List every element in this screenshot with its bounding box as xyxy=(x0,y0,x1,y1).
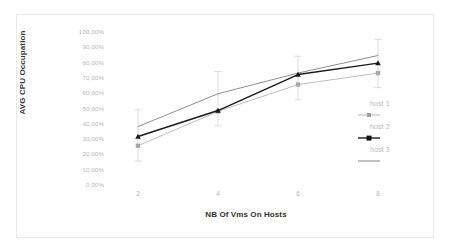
series-line-host-2 xyxy=(138,63,378,136)
legend-entry-host-2[interactable]: host 2 xyxy=(352,123,422,146)
legend-swatch-icon xyxy=(358,157,380,165)
data-point-host-1 xyxy=(136,144,140,148)
series-line-host-3 xyxy=(138,55,378,126)
data-point-host-1 xyxy=(376,71,380,75)
legend-swatch-icon xyxy=(358,134,380,142)
legend-entry-host-3[interactable]: host 3 xyxy=(352,146,422,169)
chart-container: AVG CPU Occupation 100,00% 90,00% 80,00%… xyxy=(0,0,449,252)
legend-label: host 2 xyxy=(370,123,390,130)
data-point-host-1 xyxy=(296,82,300,86)
legend-swatch-icon xyxy=(358,111,380,119)
legend-label: host 1 xyxy=(370,100,390,107)
legend-label: host 3 xyxy=(370,146,390,153)
series-line-host-1 xyxy=(138,73,378,146)
chart-legend: host 1 host 2 host 3 xyxy=(352,100,422,169)
legend-entry-host-1[interactable]: host 1 xyxy=(352,100,422,123)
